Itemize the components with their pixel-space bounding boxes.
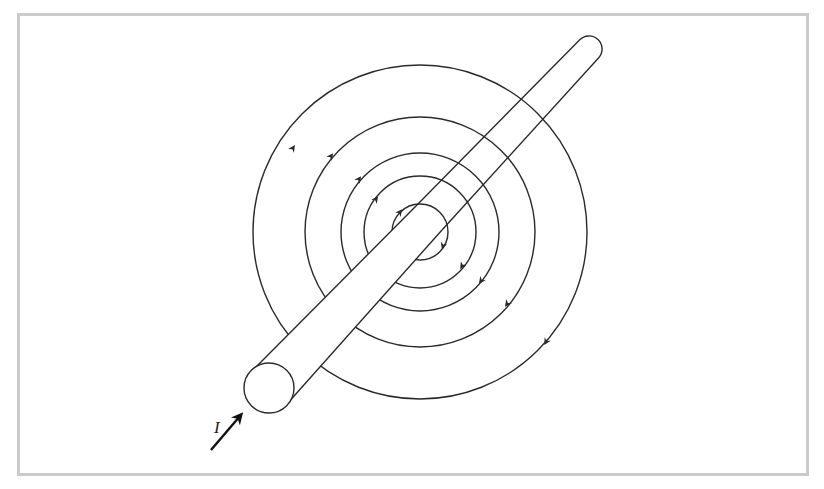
wire-near-segment <box>244 206 442 413</box>
wire-end-cross-section <box>244 363 294 413</box>
arrow-icon <box>462 258 467 266</box>
current-label: I <box>214 418 220 438</box>
wire-far-segment <box>416 36 602 230</box>
magnetic-field-diagram <box>0 0 824 489</box>
arrow-icon <box>287 148 293 157</box>
